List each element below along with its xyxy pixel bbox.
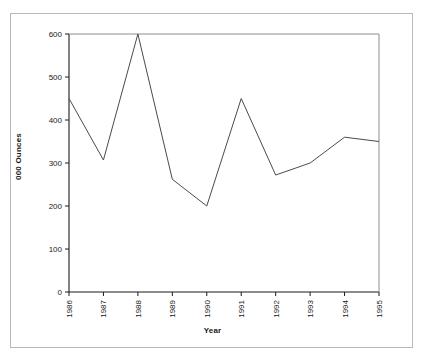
figure-frame: 0100200300400500600198619871988198919901… xyxy=(10,13,413,348)
y-tick-label: 100 xyxy=(49,245,63,254)
data-series-line xyxy=(69,34,379,206)
chart-canvas: 0100200300400500600198619871988198919901… xyxy=(11,14,414,349)
x-tick-label: 1990 xyxy=(203,299,212,317)
y-tick-label: 300 xyxy=(49,159,63,168)
y-tick-label: 400 xyxy=(49,116,63,125)
y-tick-label: 600 xyxy=(49,30,63,39)
y-tick-label: 200 xyxy=(49,202,63,211)
x-tick-label: 1993 xyxy=(306,299,315,317)
x-tick-label: 1991 xyxy=(237,299,246,317)
x-tick-label: 1987 xyxy=(99,299,108,317)
line-chart: 0100200300400500600198619871988198919901… xyxy=(11,14,414,349)
x-tick-label: 1986 xyxy=(65,299,74,317)
x-tick-label: 1988 xyxy=(134,299,143,317)
x-tick-label: 1995 xyxy=(375,299,384,317)
x-tick-label: 1992 xyxy=(272,299,281,317)
y-tick-label: 500 xyxy=(49,73,63,82)
y-tick-label: 0 xyxy=(58,288,63,297)
y-axis-title: 000 Ounces xyxy=(14,133,23,180)
clipped-title xyxy=(0,0,426,11)
x-axis-title: Year xyxy=(11,326,414,335)
x-tick-label: 1989 xyxy=(168,299,177,317)
x-tick-label: 1994 xyxy=(341,299,350,317)
